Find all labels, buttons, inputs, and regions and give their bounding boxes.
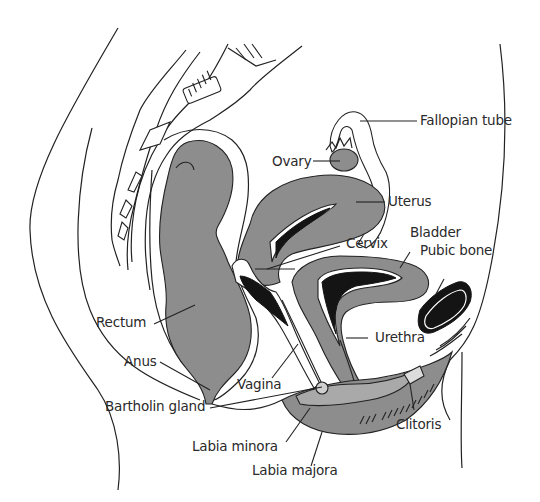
vertebra-4 [120,200,132,218]
label-labia-minora: Labia minora [192,440,278,454]
label-bladder: Bladder [410,226,461,240]
label-vagina: Vagina [237,378,281,392]
back-contour [30,28,119,490]
label-labia-majora: Labia majora [252,464,338,478]
label-pubic-bone: Pubic bone [420,244,492,258]
label-cervix: Cervix [346,237,388,251]
label-urethra: Urethra [375,331,425,345]
anatomy-diagram: Fallopian tube Ovary Uterus Bladder Cerv… [0,0,540,502]
thigh-contour [461,352,462,468]
label-clitoris: Clitoris [396,418,441,432]
label-anus: Anus [124,355,157,369]
label-ovary: Ovary [272,155,311,169]
label-bartholin-gland: Bartholin gland [105,400,205,414]
vertebra-5 [118,222,128,240]
label-rectum: Rectum [96,316,146,330]
vertebra-top [228,48,276,66]
vertebra-1 [182,76,221,104]
label-uterus: Uterus [388,195,431,209]
ovary-shape [330,149,358,171]
vertebra-2 [140,122,170,150]
label-fallopian-tube: Fallopian tube [420,114,512,128]
